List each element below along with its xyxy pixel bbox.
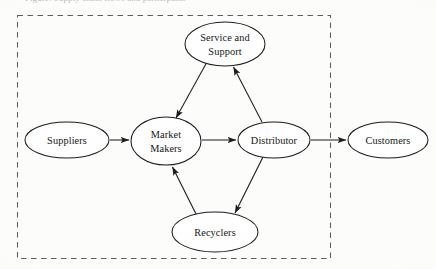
edge-distributor-to-recyclers	[235, 157, 263, 213]
clipped-caption-text: Figure: Supply chain flows and participa…	[0, 0, 436, 3]
node-market-makers-label-line2: Makers	[150, 143, 181, 154]
node-distributor-label: Distributor	[251, 135, 298, 146]
node-service-and-support-label-line2: Support	[208, 46, 241, 57]
edge-service-and-support-to-market-makers	[176, 62, 207, 118]
figure-canvas: Figure: Supply chain flows and participa…	[0, 0, 436, 269]
node-suppliers-label: Suppliers	[47, 135, 87, 146]
edge-recyclers-to-market-makers	[173, 167, 197, 214]
node-service-and-support-shape	[185, 22, 265, 66]
node-service-and-support[interactable]: Service and Support	[185, 22, 265, 66]
diagram-svg: Suppliers Market Makers Service and Supp…	[0, 0, 436, 269]
node-market-makers-shape	[131, 117, 201, 165]
node-suppliers[interactable]: Suppliers	[25, 122, 109, 158]
node-recyclers[interactable]: Recyclers	[172, 212, 258, 252]
edge-distributor-to-service-and-support	[234, 67, 263, 122]
clipped-caption: Figure: Supply chain flows and participa…	[0, 0, 436, 5]
node-distributor[interactable]: Distributor	[238, 122, 310, 158]
node-recyclers-label: Recyclers	[194, 227, 236, 238]
node-market-makers-label-line1: Market	[151, 129, 181, 140]
node-market-makers[interactable]: Market Makers	[131, 117, 201, 165]
node-customers-label: Customers	[366, 135, 411, 146]
node-customers[interactable]: Customers	[348, 122, 428, 158]
node-service-and-support-label-line1: Service and	[200, 32, 250, 43]
